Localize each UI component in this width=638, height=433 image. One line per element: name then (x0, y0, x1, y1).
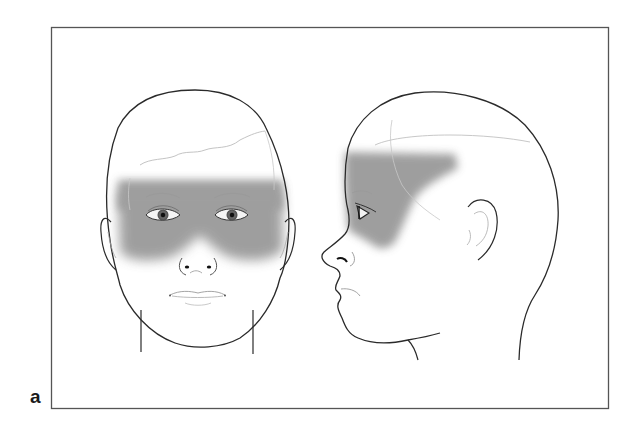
mouth (169, 291, 226, 305)
panel-label: a (30, 387, 41, 406)
lateral-ear (467, 200, 497, 260)
lateral-shading (345, 152, 458, 248)
hairline (140, 131, 265, 165)
figure: a (0, 0, 638, 433)
nose (179, 258, 216, 275)
lips (341, 289, 360, 296)
lateral-hairline (375, 135, 530, 145)
frontal-view (101, 90, 295, 354)
neck-front (408, 340, 418, 360)
frontal-shading (118, 180, 283, 260)
lateral-view (322, 92, 558, 360)
nostril (337, 258, 347, 262)
illustration (0, 0, 638, 433)
